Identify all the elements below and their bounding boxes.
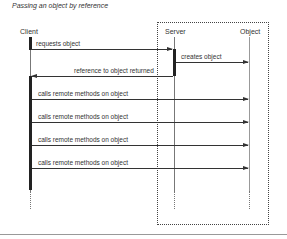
client-activation-2 (29, 76, 32, 190)
actor-object: Object (240, 28, 260, 35)
arrow-call-4 (32, 168, 248, 169)
actor-client: Client (20, 28, 38, 35)
message-label-creates-object: creates object (181, 53, 221, 60)
actor-server: Server (165, 28, 186, 35)
client-lifeline-continuation (30, 191, 31, 209)
arrow-call-3 (32, 145, 248, 146)
message-label-reference-returned: reference to object returned (74, 67, 154, 74)
message-label-call-3: calls remote methods on object (38, 136, 128, 143)
object-lifeline (249, 37, 250, 191)
bottom-divider (0, 234, 287, 235)
arrow-reference-returned (32, 76, 173, 77)
message-label-call-2: calls remote methods on object (38, 113, 128, 120)
message-label-call-1: calls remote methods on object (38, 90, 128, 97)
arrow-requests-object (31, 49, 172, 50)
arrow-call-2 (32, 122, 248, 123)
object-lifeline-continuation (249, 191, 250, 209)
server-lifeline-continuation (174, 191, 175, 209)
message-label-requests-object: requests object (36, 40, 80, 47)
message-label-call-4: calls remote methods on object (38, 159, 128, 166)
arrow-call-1 (32, 99, 248, 100)
arrow-creates-object (176, 62, 248, 63)
diagram-title: Passing an object by reference (12, 2, 108, 9)
